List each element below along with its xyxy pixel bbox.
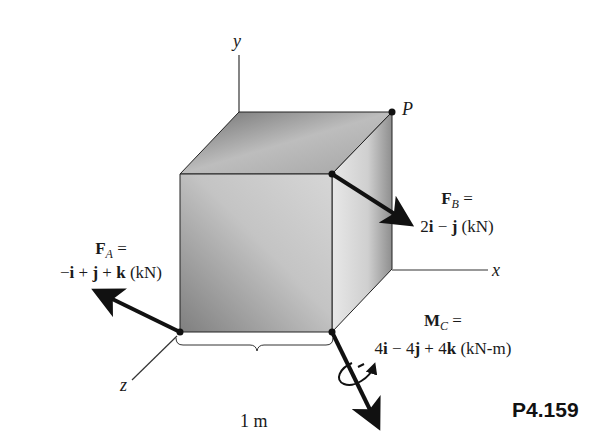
term: −: [60, 263, 70, 282]
cube-diagram: [0, 0, 613, 445]
point-a: [177, 329, 184, 336]
problem-id: P4.159: [512, 398, 579, 422]
force-a-subscript: A: [106, 247, 113, 261]
term: −: [434, 217, 452, 236]
moment-c-label: MC = 4i − 4j + 4k (kN-m): [348, 312, 538, 357]
dimension-label: 1 m: [240, 412, 268, 430]
point-p-label: P: [402, 100, 413, 118]
term: 4: [375, 339, 384, 358]
term: + 4: [420, 339, 447, 358]
z-axis-label: z: [120, 376, 127, 394]
term-unit: (kN-m): [456, 339, 511, 358]
point-c: [329, 329, 336, 336]
force-b-label: FB = 2i − j (kN): [402, 190, 512, 235]
term-unit: (kN): [126, 263, 162, 282]
term: − 4: [388, 339, 415, 358]
force-b-equals: =: [463, 189, 473, 208]
force-a-arrow: [102, 294, 180, 332]
moment-c-symbol: M: [424, 311, 440, 330]
force-b-symbol: F: [441, 189, 451, 208]
term-k: k: [116, 263, 125, 282]
moment-c-subscript: C: [440, 319, 448, 333]
x-axis-label: x: [492, 261, 500, 279]
moment-curl-dash: [358, 364, 364, 367]
force-a-symbol: F: [95, 239, 105, 258]
term: +: [98, 263, 116, 282]
point-b: [329, 171, 336, 178]
force-a-equals: =: [117, 239, 127, 258]
y-axis-label: y: [233, 32, 241, 50]
z-axis: [132, 336, 177, 380]
cube-front-face: [180, 174, 332, 332]
point-p: [389, 109, 396, 116]
term-unit: (kN): [457, 217, 493, 236]
term: 2: [420, 217, 429, 236]
moment-c-equals: =: [452, 311, 462, 330]
force-b-subscript: B: [452, 197, 459, 211]
term-k: k: [447, 339, 456, 358]
dimension-brace: [176, 338, 333, 351]
term: +: [74, 263, 92, 282]
